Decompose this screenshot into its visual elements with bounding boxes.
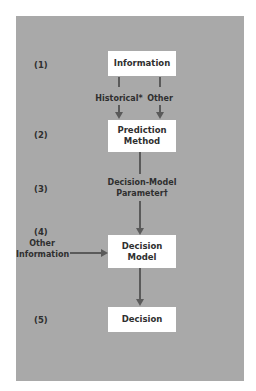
historical-arrow-top — [118, 77, 120, 87]
step-2-label: (2) — [34, 130, 48, 140]
parameter-label-line1: Decision-Model — [100, 177, 184, 188]
step-4-label: (4) — [34, 227, 48, 237]
other-info-arrow — [70, 252, 102, 254]
step-3-label: (3) — [34, 184, 48, 194]
arrow-down-icon — [136, 299, 144, 306]
information-node: Information — [108, 51, 176, 76]
prediction-method-node: Prediction Method — [108, 120, 176, 152]
other-arrow-top — [159, 77, 161, 87]
step-5-label: (5) — [34, 315, 48, 325]
parameter-label-line2: Parameter† — [100, 188, 184, 199]
historical-label: Historical* — [94, 93, 144, 104]
decision-node: Decision — [108, 307, 176, 332]
decision-model-line1: Decision — [122, 241, 163, 252]
parameter-arrow-top — [139, 152, 141, 174]
parameter-arrow-bottom — [139, 201, 141, 228]
decision-arrow — [139, 268, 141, 300]
arrow-down-icon — [136, 228, 144, 235]
decision-model-node: Decision Model — [108, 235, 176, 268]
decision-model-line2: Model — [127, 252, 156, 263]
prediction-method-line1: Prediction — [117, 125, 166, 136]
other-info-line2: Information — [16, 249, 68, 260]
arrow-right-icon — [101, 249, 108, 257]
information-node-label: Information — [114, 58, 170, 69]
other-label: Other — [146, 93, 174, 104]
step-1-label: (1) — [34, 60, 48, 70]
prediction-method-line2: Method — [124, 136, 160, 147]
decision-node-label: Decision — [122, 314, 163, 325]
arrow-down-icon — [115, 112, 123, 119]
arrow-down-icon — [156, 112, 164, 119]
other-info-line1: Other — [16, 238, 68, 249]
